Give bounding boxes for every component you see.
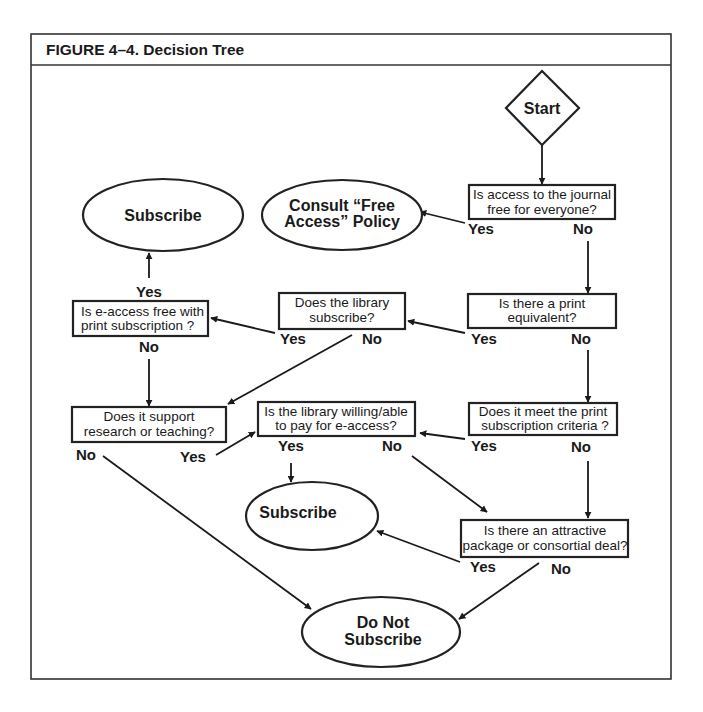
node-willing-pay-question: Is the library willing/able to pay for e… [258, 402, 415, 436]
terminal-text: Subscribe [259, 504, 336, 521]
question-text-line: to pay for e-access? [275, 418, 397, 433]
node-subscribe-top: Subscribe [83, 179, 243, 251]
node-package-deal-question: Is there an attractive package or consor… [461, 520, 628, 557]
label-research-yes: Yes [180, 448, 206, 465]
node-consult-policy: Consult “Free Access” Policy [262, 180, 422, 250]
label-print-equivalent-yes: Yes [471, 330, 497, 347]
label-print-criteria-no: No [571, 438, 591, 455]
question-text-line: subscribe? [309, 310, 374, 325]
label-print-criteria-yes: Yes [471, 437, 497, 454]
edge-print-equivalent-yes [408, 321, 465, 333]
node-subscribe-mid: Subscribe [246, 482, 378, 550]
decision-tree-figure: FIGURE 4–4. Decision Tree Start Is acces… [0, 0, 703, 712]
node-do-not-subscribe: Do Not Subscribe [302, 597, 460, 667]
question-text-line: research or teaching? [84, 424, 215, 439]
node-eaccess-free-question: Is e-access free with print subscription… [73, 301, 208, 336]
label-package-no: No [551, 560, 571, 577]
start-label: Start [524, 100, 561, 117]
question-text-line: Is the library willing/able [264, 404, 407, 419]
question-text-line: free for everyone? [487, 202, 597, 217]
node-library-subscribes-question: Does the library subscribe? [279, 293, 405, 329]
question-text-line: subscription criteria ? [481, 418, 609, 433]
question-text-line: Is access to the journal [473, 187, 611, 202]
label-eaccess-free-yes: Yes [136, 283, 162, 300]
label-willing-pay-no: No [382, 437, 402, 454]
terminal-text: Subscribe [124, 207, 201, 224]
label-free-access-yes: Yes [468, 220, 494, 237]
label-print-equivalent-no: No [571, 330, 591, 347]
node-research-teaching-question: Does it support research or teaching? [72, 407, 226, 442]
node-print-equivalent-question: Is there a print equivalent? [468, 294, 616, 328]
question-text-line: Is e-access free with [81, 304, 204, 319]
terminal-text-line: Subscribe [344, 631, 421, 648]
edge-willing-pay-no [412, 456, 487, 512]
edge-free-access-yes [420, 212, 465, 223]
question-text-line: Does it meet the print [479, 404, 608, 419]
figure-frame [31, 34, 671, 679]
label-free-access-no: No [573, 220, 593, 237]
question-text-line: Does the library [295, 295, 390, 310]
question-text-line: equivalent? [507, 310, 576, 325]
question-text-line: print subscription ? [81, 318, 194, 333]
label-library-subscribes-yes: Yes [280, 330, 306, 347]
figure-title: FIGURE 4–4. Decision Tree [46, 41, 245, 58]
label-research-no: No [76, 446, 96, 463]
label-willing-pay-yes: Yes [278, 437, 304, 454]
terminal-text-line: Access” Policy [284, 213, 400, 230]
label-package-yes: Yes [470, 558, 496, 575]
edge-library-subscribes-yes [211, 318, 275, 333]
label-eaccess-free-no: No [139, 338, 159, 355]
question-text-line: package or consortial deal? [462, 538, 627, 553]
node-free-access-question: Is access to the journal free for everyo… [469, 185, 615, 219]
edge-print-criteria-yes [420, 433, 465, 439]
node-start: Start [506, 71, 579, 145]
terminal-text-line: Consult “Free [289, 197, 395, 214]
question-text-line: Is there a print [499, 296, 586, 311]
question-text-line: Does it support [104, 409, 195, 424]
question-text-line: Is there an attractive [484, 523, 606, 538]
node-print-criteria-question: Does it meet the print subscription crit… [469, 403, 617, 435]
terminal-text-line: Do Not [357, 614, 410, 631]
edge-package-yes [377, 531, 460, 562]
label-library-subscribes-no: No [362, 330, 382, 347]
